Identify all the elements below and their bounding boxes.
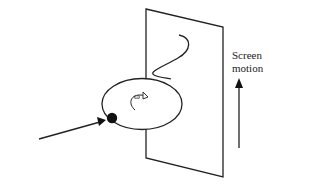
screen-motion-label-line1: Screen xyxy=(232,49,262,62)
screen-motion-arrowhead-icon xyxy=(235,78,243,88)
ball xyxy=(107,113,117,123)
wave-trace xyxy=(153,35,189,79)
incoming-arrow-shaft xyxy=(39,122,100,139)
incoming-arrowhead-icon xyxy=(97,117,106,126)
screen-motion-label-line2: motion xyxy=(232,62,263,75)
omega-label: ω xyxy=(134,90,140,103)
